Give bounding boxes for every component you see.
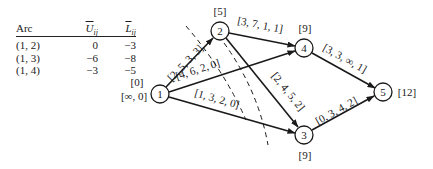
network-diagram: [2, 5, 3, 3] [4, 6, 2, 0] [1, 3, 2, 0] [… <box>0 0 433 169</box>
arc-2-4 <box>229 33 295 46</box>
node-2-annotation: [5] <box>214 5 227 17</box>
node-4-annotation: [9] <box>299 22 312 34</box>
arc-label-3-5: [0, 3, 4, 2] <box>313 94 359 127</box>
svg-text:4: 4 <box>301 42 307 54</box>
arc-label-4-5: [3, 3, ∞, 1] <box>321 41 369 75</box>
svg-text:3: 3 <box>301 129 307 141</box>
node-1-annotation: [0] <box>131 76 144 88</box>
arc-label-2-4: [3, 7, 1, 1] <box>237 14 284 35</box>
node-2: 2 [5] <box>211 5 229 40</box>
cut-line-2 <box>224 43 268 145</box>
node-3-annotation: [9] <box>299 149 312 161</box>
node-3: 3 [9] <box>295 126 313 161</box>
svg-text:2: 2 <box>217 25 223 37</box>
node-1: 1 [0] [∞, 0] <box>121 76 169 103</box>
node-5: 5 [12] <box>374 83 416 101</box>
node-1-annotation-2: [∞, 0] <box>121 90 147 102</box>
arc-label-2-3: [2, 4, 5, 2] <box>269 70 307 113</box>
svg-text:1: 1 <box>157 88 163 100</box>
svg-text:5: 5 <box>380 86 386 98</box>
node-5-annotation: [12] <box>398 86 416 98</box>
node-4: 4 [9] <box>295 22 313 57</box>
arc-label-1-3: [1, 3, 2, 0] <box>193 86 240 110</box>
